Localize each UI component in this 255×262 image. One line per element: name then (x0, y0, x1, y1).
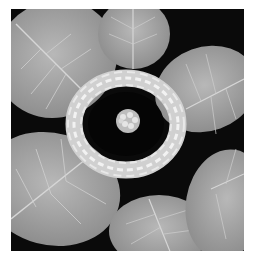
leaves-and-wreath-scene (11, 9, 244, 251)
photograph (11, 9, 244, 251)
bud-cluster (116, 109, 140, 133)
